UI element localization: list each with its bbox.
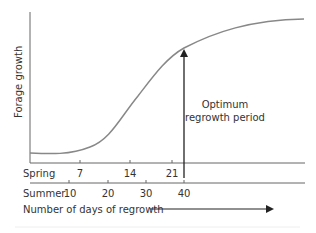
y-axis-label: Forage growth: [13, 46, 24, 118]
spring-tick-21: 21: [166, 168, 179, 179]
spring-tick-14: 14: [124, 168, 137, 179]
forage-growth-curve: [30, 19, 304, 154]
spring-label: Spring: [23, 168, 55, 179]
summer-tick-20: 20: [102, 188, 115, 199]
summer-tick-40: 40: [178, 188, 191, 199]
summer-tick-30: 30: [140, 188, 153, 199]
annotation-line-2: regrowth period: [185, 112, 265, 123]
summer-label: Summer: [23, 188, 66, 199]
summer-tick-10: 10: [64, 188, 77, 199]
annotation-line-1: Optimum: [202, 99, 249, 110]
x-axis-label: Number of days of regrowth: [23, 204, 164, 215]
forage-growth-chart: Forage growth Optimum regrowth period Sp…: [0, 0, 316, 233]
spring-tick-7: 7: [77, 168, 83, 179]
